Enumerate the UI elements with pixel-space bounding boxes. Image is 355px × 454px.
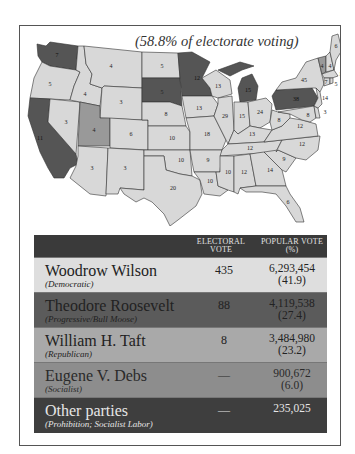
label-ms: 10 [225,169,231,175]
label-wv: 8 [278,117,281,123]
popular-count: 4,119,538 [256,297,328,309]
label-ne: 8 [165,111,168,117]
label-mo: 18 [204,131,210,137]
popular-vote: 6,293,454 (41.9) [256,262,328,286]
label-wa: 7 [56,52,59,58]
label-pa: 38 [293,96,299,102]
candidate-party: (Democratic) [45,279,93,289]
label-sc: 9 [283,156,286,162]
label-vt: 4 [321,63,324,69]
election-map: 7 5 11 3 4 4 3 4 6 3 3 5 5 8 10 10 20 12… [20,26,340,226]
state-mn [178,52,212,96]
label-ok: 10 [178,157,184,163]
label-ky: 13 [249,131,255,137]
us-map-svg: 7 5 11 3 4 4 3 4 6 3 3 5 5 8 10 10 20 12… [20,26,340,226]
label-co: 6 [130,131,133,137]
label-nc: 12 [299,141,305,147]
label-mi: 15 [245,87,251,93]
label-al: 12 [241,169,247,175]
table-row-taft: William H. Taft (Republican) 8 3,484,980… [34,328,327,363]
label-ny: 45 [301,77,307,83]
candidate-name: Other parties [45,402,128,419]
electoral-vote: 88 [204,298,244,313]
popular-vote: 4,119,538 (27.4) [256,297,328,321]
label-mt: 4 [110,63,113,69]
label-ar: 9 [207,157,210,163]
candidate-party: (Republican) [45,349,92,359]
candidate-name: William H. Taft [45,332,146,349]
label-id: 4 [84,91,87,97]
label-la: 10 [207,178,213,184]
label-nm: 3 [124,165,127,171]
candidate-party: (Prohibition; Socialist Labor) [45,419,153,429]
popular-percent: (41.9) [256,274,328,286]
label-de: 3 [324,109,327,115]
label-ut: 4 [93,127,96,133]
popular-percent: (27.4) [256,309,328,321]
table-row-roosevelt: Theodore Roosevelt (Progressive/Bull Moo… [34,293,327,328]
popular-percent: (6.0) [256,379,328,391]
label-me: 6 [335,43,338,49]
turnout-caption: (58.8% of electorate voting) [135,33,298,50]
state-fl [240,186,304,222]
label-ks: 10 [169,135,175,141]
candidate-party: (Socialist) [45,384,82,394]
label-sd: 5 [161,89,164,95]
label-ct: 7 [325,79,328,85]
label-md: 8 [307,112,310,118]
header-electoral: ELECTORAL VOTE [196,238,246,254]
label-ca: 11 [37,135,43,141]
state-ri [330,78,333,84]
header-popular: POPULAR VOTE (%) [256,238,328,254]
label-wy: 3 [120,99,123,105]
label-nd: 5 [161,63,164,69]
table-header: ELECTORAL VOTE POPULAR VOTE (%) [34,235,327,258]
label-nj: 14 [322,95,328,101]
candidate-name: Eugene V. Debs [45,367,147,384]
popular-count: 235,025 [256,402,328,414]
label-nh: 4 [329,63,332,69]
label-az: 3 [91,165,94,171]
label-or: 5 [49,81,52,87]
popular-vote: 235,025 [256,402,328,414]
state-ny [276,58,324,92]
candidate-party: (Progressive/Bull Moose) [45,314,137,324]
label-ma: 18 [339,71,340,77]
table-row-debs: Eugene V. Debs (Socialist) — 900,672 (6.… [34,363,327,398]
popular-count: 3,484,980 [256,332,328,344]
popular-vote: 900,672 (6.0) [256,367,328,391]
table-row-wilson: Woodrow Wilson (Democratic) 435 6,293,45… [34,258,327,293]
popular-percent: (23.2) [256,344,328,356]
header-popular-line2: (%) [256,246,328,254]
candidate-name: Theodore Roosevelt [45,297,174,314]
label-tx: 20 [170,185,176,191]
label-in: 15 [239,113,245,119]
label-fl: 6 [287,199,290,205]
candidate-name: Woodrow Wilson [45,262,157,279]
electoral-vote: 435 [204,263,244,278]
electoral-vote: 8 [204,333,244,348]
electoral-vote: — [204,368,244,383]
state-nm [106,148,144,194]
label-nv: 3 [65,119,68,125]
label-oh: 24 [257,109,263,115]
label-mn: 12 [194,75,200,81]
state-mt [84,46,142,88]
popular-vote: 3,484,980 (23.2) [256,332,328,356]
label-wi: 13 [215,83,221,89]
table-row-other: Other parties (Prohibition; Socialist La… [34,398,327,433]
popular-count: 6,293,454 [256,262,328,274]
electoral-vote: — [204,403,244,418]
label-tn: 12 [247,145,253,151]
label-ga: 14 [267,167,273,173]
label-ri: 5 [335,81,338,87]
results-table: ELECTORAL VOTE POPULAR VOTE (%) Woodrow … [34,235,327,442]
label-va: 12 [297,123,303,129]
header-electoral-line2: VOTE [196,246,246,254]
popular-count: 900,672 [256,367,328,379]
label-ia: 13 [196,105,202,111]
label-il: 29 [222,113,228,119]
